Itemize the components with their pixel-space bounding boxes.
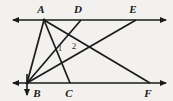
vertex-dot-B: [26, 82, 29, 85]
figure-background: [0, 0, 173, 101]
point-label-E: E: [128, 3, 136, 15]
point-label-B: B: [32, 87, 40, 99]
vertex-dot-A: [43, 19, 46, 22]
point-label-C: C: [65, 87, 73, 99]
geometry-figure: A D E B C F 1 2: [0, 0, 173, 101]
angle-label-2: 2: [72, 41, 77, 51]
point-label-D: D: [73, 3, 82, 15]
point-label-A: A: [36, 3, 44, 15]
point-label-F: F: [143, 87, 152, 99]
angle-label-1: 1: [58, 43, 63, 53]
